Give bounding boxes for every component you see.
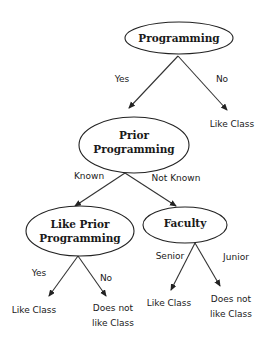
edge-label-like-prior-no: No xyxy=(100,273,113,283)
node-like-prior-line1: Like Prior xyxy=(51,218,110,230)
leaf-faculty-junior-line2: like Class xyxy=(210,309,252,319)
node-prior-programming-line2: Programming xyxy=(93,143,175,155)
leaf-faculty-junior-line1: Does not xyxy=(211,294,252,304)
leaf-like-prior-no-line1: Does not xyxy=(93,303,134,313)
leaf-root-no: Like Class xyxy=(210,119,255,129)
decision-tree-diagram: Programming Prior Programming Like Prior… xyxy=(0,0,267,343)
edge-label-root-yes: Yes xyxy=(114,74,130,84)
node-prior-programming: Prior Programming xyxy=(79,117,189,173)
edge-root-yes xyxy=(129,56,178,108)
leaf-like-prior-no-line2: like Class xyxy=(92,318,134,328)
node-faculty-label: Faculty xyxy=(164,217,208,229)
node-like-prior-programming: Like Prior Programming xyxy=(26,206,134,256)
leaf-like-prior-yes: Like Class xyxy=(12,305,57,315)
edge-faculty-junior xyxy=(195,243,220,286)
node-prior-programming-line1: Prior xyxy=(119,129,149,141)
edge-label-prior-known: Known xyxy=(74,171,104,181)
edge-label-faculty-senior: Senior xyxy=(156,251,185,261)
node-programming-label: Programming xyxy=(138,32,220,44)
edge-label-root-no: No xyxy=(216,74,229,84)
edge-label-faculty-junior: Junior xyxy=(222,252,249,262)
edge-label-prior-not-known: Not Known xyxy=(152,173,201,183)
edge-like-prior-yes xyxy=(49,256,78,296)
node-like-prior-line2: Programming xyxy=(39,232,121,244)
edge-label-like-prior-yes: Yes xyxy=(31,268,47,278)
node-programming: Programming xyxy=(125,22,233,54)
node-faculty: Faculty xyxy=(143,207,227,243)
leaf-faculty-senior: Like Class xyxy=(147,298,192,308)
